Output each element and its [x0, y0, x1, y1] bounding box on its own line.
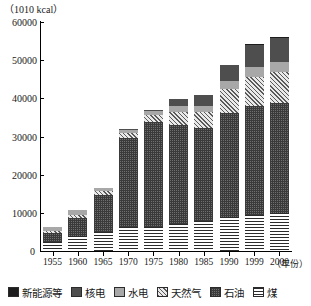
legend-label: 煤	[267, 285, 277, 300]
bar-1999	[245, 44, 264, 251]
legend-item-gas[interactable]: 天然气	[157, 285, 201, 300]
y-axis-tick-label: 0	[30, 246, 35, 257]
bar-1985	[194, 95, 213, 251]
bar-segment-oil	[68, 218, 87, 236]
bar-segment-coal	[43, 242, 62, 251]
energy-consumption-stacked-bar-chart: （1010 kcal） 0100002000030000400005000060…	[0, 0, 311, 306]
bar-segment-nuclear-power	[270, 38, 289, 62]
bar-segment-coal	[144, 227, 163, 251]
x-axis-tick-label: 1999	[245, 257, 264, 267]
bar-segment-hydropower	[119, 130, 138, 134]
x-axis-tick	[229, 252, 230, 256]
x-axis-tick	[128, 252, 129, 256]
bar-segment-natural-gas	[94, 191, 113, 194]
legend-swatch-hydro-icon	[114, 287, 125, 297]
x-axis-tick	[153, 252, 154, 256]
bar-segment-coal	[270, 213, 289, 251]
bar-segment-nuclear-power	[119, 129, 138, 130]
legend-swatch-newenergy-icon	[8, 287, 19, 297]
bar-segment-natural-gas	[245, 77, 264, 106]
x-axis-tick	[78, 252, 79, 256]
y-axis-tick-label: 60000	[12, 17, 37, 28]
legend-item-nuclear[interactable]: 核电	[71, 285, 105, 300]
bar-segment-hydropower	[144, 111, 163, 115]
bar-segment-coal	[169, 224, 188, 251]
bar-segment-nuclear-power	[144, 110, 163, 111]
bar-segment-coal	[68, 236, 87, 251]
legend-label: 石油	[224, 285, 244, 300]
bar-segment-natural-gas	[220, 89, 239, 113]
bar-segment-natural-gas	[169, 112, 188, 125]
x-axis-tick	[204, 252, 205, 256]
x-axis-tick-label: 1975	[144, 257, 163, 267]
legend-label: 核电	[85, 285, 105, 300]
y-axis-tick-label: 50000	[12, 55, 37, 66]
bar-2000	[270, 37, 289, 251]
bar-segment-natural-gas	[270, 72, 289, 103]
bar-segment-oil	[220, 113, 239, 217]
x-axis-tick	[254, 252, 255, 256]
x-axis-tick-label: 1970	[119, 257, 138, 267]
legend-swatch-gas-icon	[157, 287, 168, 297]
bar-segment-natural-gas	[68, 215, 87, 218]
bar-segment-hydropower	[43, 227, 62, 231]
y-axis-tick-label: 10000	[12, 207, 37, 218]
legend-swatch-oil-icon	[210, 287, 221, 297]
bar-1990	[220, 65, 239, 251]
legend-item-oil[interactable]: 石油	[210, 285, 244, 300]
legend-label: 新能源等	[22, 285, 62, 300]
y-axis-tick-label: 30000	[12, 131, 37, 142]
x-axis-title: （年份）	[272, 257, 308, 270]
bar-1975	[144, 110, 163, 251]
x-axis-tick-label: 1990	[220, 257, 239, 267]
legend-label: 天然气	[171, 285, 201, 300]
bar-segment-nuclear-power	[245, 45, 264, 68]
bar-segment-oil	[245, 106, 264, 215]
bar-1980	[169, 99, 188, 251]
bar-segment-hydropower	[220, 81, 239, 89]
bar-segment-natural-gas	[194, 112, 213, 127]
bar-segment-coal	[245, 215, 264, 251]
bar-segment-hydropower	[245, 67, 264, 77]
bar-segment-oil	[194, 128, 213, 222]
x-axis-tick-label: 1985	[194, 257, 213, 267]
bar-segment-hydropower	[194, 106, 213, 113]
bar-segment-oil	[119, 138, 138, 228]
y-axis-tick-label: 40000	[12, 93, 37, 104]
legend-swatch-coal-icon	[253, 287, 264, 297]
x-axis-tick-label: 1960	[68, 257, 87, 267]
y-axis-tick-label: 20000	[12, 169, 37, 180]
x-axis-tick-label: 1980	[169, 257, 188, 267]
bar-1965	[94, 188, 113, 251]
bar-segment-nuclear-power	[169, 99, 188, 107]
bar-1955	[43, 227, 62, 251]
x-axis-tick	[279, 252, 280, 256]
bar-segment-nuclear-power	[194, 95, 213, 105]
bar-segment-oil	[43, 233, 62, 241]
bar-segment-oil	[270, 103, 289, 213]
chart-legend: 新能源等核电水电天然气石油煤	[8, 284, 308, 300]
legend-item-coal[interactable]: 煤	[253, 285, 277, 300]
bar-segment-hydropower	[68, 210, 87, 215]
x-axis-tick-label: 1955	[43, 257, 62, 267]
bar-segment-coal	[194, 221, 213, 251]
bar-segment-coal	[220, 217, 239, 251]
bar-segment-coal	[94, 232, 113, 251]
bar-segment-nuclear-power	[220, 65, 239, 81]
legend-item-newenergy[interactable]: 新能源等	[8, 285, 62, 300]
bar-segment-oil	[94, 195, 113, 232]
y-axis-unit-label: （1010 kcal）	[4, 1, 63, 16]
bar-segment-oil	[144, 122, 163, 227]
bar-segment-natural-gas	[43, 231, 62, 234]
legend-item-hydro[interactable]: 水电	[114, 285, 148, 300]
bar-segment-hydropower	[270, 62, 289, 72]
x-axis-tick	[53, 252, 54, 256]
legend-swatch-nuclear-icon	[71, 287, 82, 297]
bar-segment-new-energy-etc	[270, 37, 289, 38]
bar-segment-natural-gas	[119, 133, 138, 137]
bar-segment-hydropower	[94, 188, 113, 191]
bar-1970	[119, 129, 138, 251]
plot-area	[40, 22, 292, 251]
bar-segment-coal	[119, 227, 138, 251]
bar-segment-new-energy-etc	[245, 44, 264, 45]
